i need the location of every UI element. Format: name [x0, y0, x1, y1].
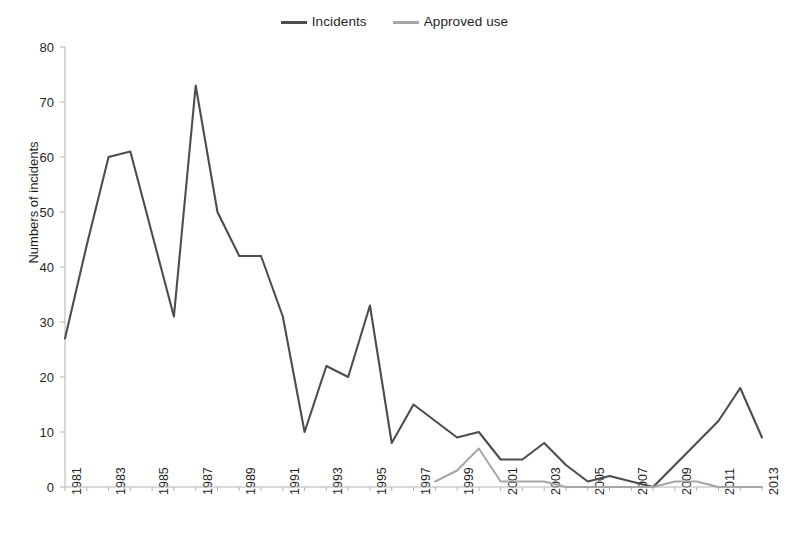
- chart-figure: Incidents Approved use Numbers of incide…: [0, 0, 789, 537]
- series-line-approved-use: [435, 449, 762, 488]
- plot-area: [0, 0, 789, 537]
- series-line-incidents: [65, 86, 762, 488]
